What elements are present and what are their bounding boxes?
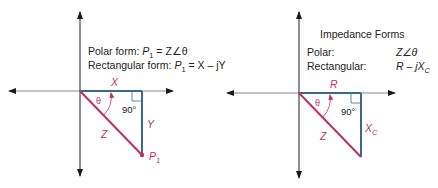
right-label-90: 90° <box>341 106 356 117</box>
impedance-diagrams: Polar form: P1 = Z∠θ Rectangular form: P… <box>0 0 438 188</box>
left-polar-formula: Polar form: P1 = Z∠θ <box>88 45 188 60</box>
left-label-90: 90° <box>122 104 137 115</box>
right-label-xc: XC <box>364 122 378 137</box>
right-rect-value: R – jXC <box>396 60 431 75</box>
left-label-p1: P1 <box>149 150 160 165</box>
right-right-angle-marker <box>351 93 361 103</box>
left-theta-arc <box>104 93 111 115</box>
right-label-theta: θ <box>315 98 320 108</box>
left-right-angle-marker <box>132 91 142 101</box>
left-rect-formula: Rectangular form: P1 = X – jY <box>88 59 226 74</box>
left-label-y: Y <box>147 118 155 130</box>
left-label-x: X <box>110 76 119 88</box>
right-polar-label: Polar: <box>307 46 334 58</box>
right-theta-arc <box>323 95 330 117</box>
left-label-theta: θ <box>96 96 101 106</box>
right-rect-label: Rectangular: <box>307 60 367 72</box>
right-polar-value: Z∠θ <box>395 46 417 58</box>
right-label-z: Z <box>319 130 327 142</box>
right-label-r: R <box>330 78 338 90</box>
right-diagram: Impedance Forms Polar: Z∠θ Rectangular: … <box>227 12 431 178</box>
left-diagram: Polar form: P1 = Z∠θ Rectangular form: P… <box>9 12 226 176</box>
left-label-z: Z <box>100 128 108 140</box>
left-point-p1 <box>140 153 144 157</box>
right-title: Impedance Forms <box>320 28 405 40</box>
